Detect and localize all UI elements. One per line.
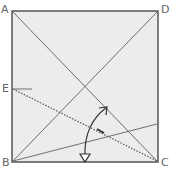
label-b: B (2, 157, 10, 168)
label-c: C (161, 157, 169, 168)
diagram-canvas (0, 0, 172, 170)
label-d: D (161, 4, 169, 15)
label-a: A (1, 4, 9, 15)
label-e: E (2, 83, 9, 94)
